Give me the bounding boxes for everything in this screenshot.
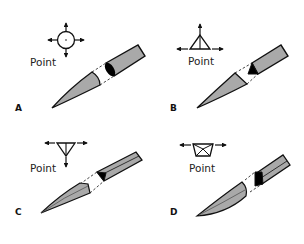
circle-cross-section-icon	[48, 23, 84, 57]
point-label: Point	[30, 162, 56, 174]
triangle-cross-section-icon	[177, 24, 223, 49]
panel-label-b: B	[170, 103, 177, 113]
point-label: Point	[30, 56, 56, 68]
panel-label-a: A	[15, 103, 22, 113]
point-label: Point	[189, 162, 215, 174]
panel-b: Point B	[170, 24, 288, 113]
blade-c	[41, 152, 142, 213]
panel-c: Point C	[15, 143, 142, 217]
trapezoid-cross-section-icon	[180, 144, 226, 156]
blade-cross-section-diagram: Point A Point B	[0, 0, 304, 244]
panel-label-c: C	[15, 207, 22, 217]
panel-d: Point D	[170, 144, 290, 217]
point-label: Point	[188, 55, 214, 67]
panel-label-d: D	[170, 207, 177, 217]
panel-a: Point A	[15, 23, 145, 113]
